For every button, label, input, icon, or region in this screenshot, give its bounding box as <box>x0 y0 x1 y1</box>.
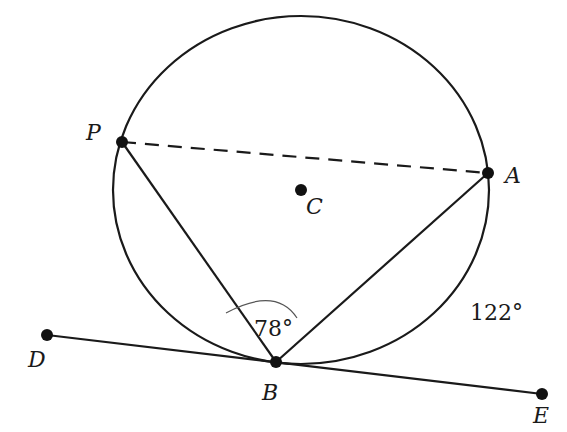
point-A <box>482 167 494 179</box>
label-D: D <box>27 347 46 372</box>
label-C: C <box>306 194 323 219</box>
segment-PB <box>122 142 276 362</box>
point-P <box>116 136 128 148</box>
arc-label-122: 122° <box>470 300 523 325</box>
tangent-line-DE <box>47 335 542 394</box>
point-B <box>270 356 282 368</box>
geometry-diagram: P A C B D E 78° 122° <box>0 0 567 432</box>
point-E <box>536 388 548 400</box>
segment-PA-dashed <box>122 142 488 173</box>
label-E: E <box>532 403 549 428</box>
label-P: P <box>85 120 102 145</box>
label-A: A <box>503 163 521 188</box>
label-B: B <box>261 380 278 405</box>
angle-label-78: 78° <box>254 316 293 341</box>
point-D <box>41 329 53 341</box>
